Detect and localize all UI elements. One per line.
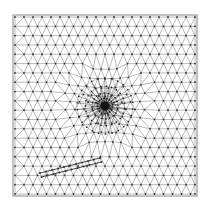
mesh-edge (83, 36, 88, 45)
mesh-node (59, 172, 61, 174)
mesh-node (127, 124, 129, 126)
mesh-edge (146, 175, 151, 184)
mesh-edge (105, 185, 110, 194)
mesh-node (126, 93, 128, 95)
mesh-edge (51, 45, 56, 54)
mesh-node (114, 97, 116, 99)
mesh-edge (101, 185, 106, 194)
mesh-node (172, 119, 174, 121)
mesh-edge (60, 17, 65, 26)
mesh-edge (146, 129, 151, 138)
mesh-node (97, 108, 99, 110)
mesh-node (77, 53, 79, 55)
mesh-edge (65, 110, 69, 118)
mesh-edge (24, 45, 29, 54)
mesh-node (14, 25, 16, 27)
mesh-node (14, 53, 16, 55)
mesh-node (93, 132, 95, 134)
mesh-edge (96, 36, 101, 45)
mesh-edge (150, 175, 155, 184)
mesh-edge (155, 166, 160, 175)
mesh-node (95, 123, 97, 125)
mesh-edge (60, 54, 65, 63)
mesh-node (91, 81, 93, 83)
mesh-node (185, 109, 187, 111)
mesh-node (77, 85, 79, 87)
mesh-edge (164, 64, 169, 73)
mesh-node (124, 102, 126, 104)
mesh-edge (78, 133, 86, 147)
mesh-edge (136, 93, 145, 94)
mesh-node (23, 72, 25, 74)
mesh-node (100, 193, 102, 195)
mesh-edge (120, 64, 127, 79)
mesh-node (92, 102, 94, 104)
mesh-edge (69, 85, 78, 86)
mesh-edge (173, 129, 178, 138)
mesh-edge (128, 166, 133, 175)
mesh-edge (155, 129, 160, 138)
mesh-edge (141, 175, 146, 184)
mesh-edge (128, 64, 129, 78)
mesh-edge (74, 26, 79, 35)
mesh-edge (186, 175, 191, 184)
mesh-node (181, 25, 183, 27)
mesh-edge (60, 26, 65, 35)
mesh-edge (177, 73, 182, 82)
mesh-node (77, 16, 79, 18)
mesh-edge (173, 54, 178, 63)
mesh-node (55, 100, 57, 102)
mesh-edge (137, 157, 142, 166)
mesh-edge (164, 110, 169, 119)
mesh-edge (124, 133, 132, 134)
mesh-node (190, 100, 192, 102)
mesh-edge (47, 119, 52, 128)
mesh-edge (101, 142, 106, 157)
mesh-node (167, 91, 169, 93)
mesh-edge (145, 110, 159, 111)
mesh-node (91, 130, 93, 132)
mesh-edge (60, 157, 65, 166)
mesh-edge (105, 54, 109, 69)
mesh-node (74, 109, 76, 111)
mesh-edge (135, 109, 140, 117)
mesh-node (181, 100, 183, 102)
mesh-node (176, 184, 178, 186)
mesh-node (122, 53, 124, 55)
mesh-edge (140, 102, 145, 110)
mesh-node (185, 147, 187, 149)
mesh-node (41, 184, 43, 186)
mesh-edge (128, 90, 131, 96)
mesh-edge (168, 129, 173, 138)
mesh-node (194, 174, 196, 176)
mesh-edge (150, 17, 155, 26)
mesh-edge (101, 175, 106, 184)
mesh-edge (155, 147, 160, 156)
mesh-edge (141, 36, 146, 45)
mesh-node (163, 137, 165, 139)
mesh-node (93, 159, 95, 161)
mesh-edge (60, 147, 65, 156)
mesh-node (136, 63, 138, 65)
mesh-edge (145, 92, 159, 94)
mesh-edge (47, 157, 52, 166)
mesh-edge (29, 175, 34, 184)
mesh-node (64, 137, 66, 139)
mesh-node (100, 44, 102, 46)
mesh-node (59, 184, 61, 186)
mesh-node (81, 121, 83, 123)
mesh-edge (173, 64, 178, 73)
mesh-node (119, 93, 121, 95)
mesh-node (99, 93, 101, 95)
mesh-edge (164, 101, 169, 110)
mesh-edge (33, 26, 38, 35)
mesh-node (28, 119, 30, 121)
mesh-edge (51, 101, 56, 110)
mesh-edge (38, 92, 43, 101)
mesh-node (158, 35, 160, 37)
mesh-node (108, 93, 110, 95)
mesh-edge (83, 166, 88, 175)
mesh-edge (56, 36, 61, 45)
mesh-edge (146, 54, 151, 63)
mesh-edge (159, 101, 164, 110)
